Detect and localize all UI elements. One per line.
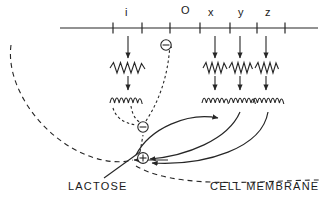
dna-line-group xyxy=(60,23,318,34)
repressor-link-from-i-protein xyxy=(131,106,143,124)
gene-label-x: x xyxy=(208,6,214,18)
transcription-unit-z xyxy=(253,36,284,104)
product-arrow-from-z xyxy=(152,112,268,163)
induction-arrow-main xyxy=(136,117,218,155)
product-arrow-from-y xyxy=(150,112,240,159)
sign-node-repressor-minus xyxy=(138,122,148,132)
transcription-unit-i xyxy=(110,36,145,104)
gene-label-operator: O xyxy=(181,4,190,16)
repressor-to-operator-arrow xyxy=(146,43,170,121)
mrna-zigzag-y xyxy=(229,63,253,74)
transcription-unit-x xyxy=(202,36,228,104)
lactose-entry-dashed-curve xyxy=(10,45,133,162)
sign-node-operator-minus xyxy=(161,40,171,50)
gene-label-z: z xyxy=(265,6,271,18)
inducer-to-repressor-link xyxy=(140,135,143,152)
diagram-svg xyxy=(0,0,325,208)
mrna-zigzag-x xyxy=(203,63,227,74)
repressor-link-secondary xyxy=(113,108,136,125)
gene-label-i: i xyxy=(125,6,127,18)
caption-cell-membrane: CELL MEMBRANE xyxy=(210,180,319,192)
mrna-zigzag-i xyxy=(110,63,145,74)
protein-coil-z xyxy=(253,98,284,104)
induction-arrows xyxy=(104,112,268,178)
sign-node-inducer-plus xyxy=(138,153,149,164)
lactose-leader-line xyxy=(104,152,140,178)
mrna-zigzag-z xyxy=(255,63,279,74)
diagram-canvas: i O x y z LACTOSE CELL MEMBRANE xyxy=(0,0,325,208)
transcription-unit-y xyxy=(229,36,255,104)
caption-lactose: LACTOSE xyxy=(68,180,128,192)
protein-coil-x xyxy=(202,98,228,104)
gene-label-y: y xyxy=(238,6,244,18)
protein-coil-i xyxy=(110,98,142,104)
protein-coil-y xyxy=(229,98,255,104)
